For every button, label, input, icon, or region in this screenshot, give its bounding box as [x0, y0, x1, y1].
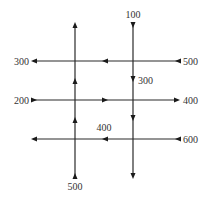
flow-label-bottom-right: 600	[183, 134, 198, 145]
arrow-up-icon	[73, 117, 78, 123]
horizontal-street-top: 300 500	[14, 56, 198, 67]
arrow-down-icon	[131, 173, 136, 179]
arrow-up-icon	[73, 173, 78, 179]
flow-label-right-top: 100	[126, 9, 141, 20]
flow-label-top-left: 300	[14, 56, 29, 67]
arrow-left-icon	[175, 59, 181, 64]
arrow-down-icon	[131, 22, 136, 28]
arrow-left-icon	[31, 59, 37, 64]
arrow-up-icon	[73, 78, 78, 84]
arrow-down-icon	[131, 115, 136, 121]
horizontal-street-bottom: 600 400	[31, 122, 198, 145]
vertical-street-right: 100 300	[126, 9, 154, 179]
vertical-street-left: 500	[68, 22, 83, 192]
traffic-flow-diagram: 500 100 300 300 500 200 400 600 400	[0, 0, 207, 207]
arrow-left-icon	[31, 137, 37, 142]
flow-label-right-middle: 300	[138, 75, 153, 86]
arrow-right-icon	[31, 98, 37, 103]
flow-label-middle-right: 400	[183, 95, 198, 106]
arrow-left-icon	[175, 137, 181, 142]
horizontal-street-middle: 200 400	[14, 95, 198, 106]
arrow-down-icon	[131, 76, 136, 82]
flow-label-top-right: 500	[183, 56, 198, 67]
flow-label-bottom-middle: 400	[97, 122, 112, 133]
arrow-right-icon	[102, 98, 108, 103]
flow-label-left-bottom: 500	[68, 181, 83, 192]
arrow-right-icon	[174, 98, 180, 103]
arrow-left-icon	[102, 59, 108, 64]
flow-label-middle-left: 200	[14, 95, 29, 106]
arrow-left-icon	[102, 137, 108, 142]
arrow-up-icon	[73, 22, 78, 28]
